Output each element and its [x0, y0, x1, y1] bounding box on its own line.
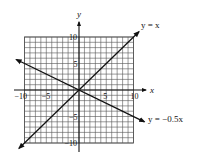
y-tick-label: −5: [69, 113, 78, 122]
y-tick-label: 10: [69, 33, 77, 42]
x-tick-label: −5: [42, 92, 51, 101]
series-label-y-equals-x: y = x: [141, 20, 160, 30]
y-axis-label: y: [76, 9, 81, 19]
plot-area: yx−10−5510105−5−10y = xy = −0.5x: [0, 0, 204, 160]
y-tick-label: 5: [74, 60, 78, 69]
x-tick-label: 5: [103, 92, 107, 101]
coordinate-graph: yx−10−5510105−5−10y = xy = −0.5x: [0, 0, 204, 160]
series-label-y-equals-neg-half-x: y = −0.5x: [148, 114, 183, 124]
x-tick-label: −10: [15, 92, 28, 101]
x-axis-label: x: [149, 85, 154, 95]
y-tick-label: −10: [65, 139, 78, 148]
x-tick-label: 10: [131, 92, 139, 101]
